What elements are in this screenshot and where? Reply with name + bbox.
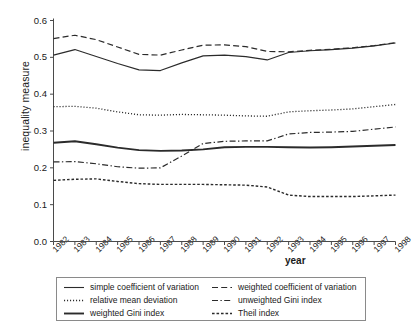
legend-item[interactable]: weighted Gini index	[63, 307, 211, 320]
series-line	[54, 179, 396, 197]
legend-item[interactable]: relative mean deviation	[63, 294, 211, 307]
legend-row: relative mean deviationunweighted Gini i…	[63, 294, 359, 307]
legend-item[interactable]: Theil index	[211, 307, 359, 320]
legend-label: simple coefficient of variation	[90, 283, 199, 292]
legend-line-sample	[211, 309, 233, 318]
legend-line-sample	[211, 296, 233, 305]
legend-item[interactable]: simple coefficient of variation	[63, 281, 211, 294]
legend-item[interactable]: unweighted Gini index	[211, 294, 359, 307]
chart-legend: simple coefficient of variationweighted …	[56, 277, 366, 321]
legend-row: simple coefficient of variationweighted …	[63, 281, 359, 294]
series-line	[54, 43, 396, 71]
legend-label: unweighted Gini index	[238, 296, 322, 305]
series-line	[54, 104, 396, 116]
legend-label: relative mean deviation	[90, 296, 177, 305]
legend-line-sample	[63, 296, 85, 305]
legend-item[interactable]: weighted coefficient of variation	[211, 281, 359, 294]
legend-row: weighted Gini indexTheil index	[63, 307, 359, 320]
legend-label: Theil index	[238, 309, 279, 318]
legend-line-sample	[63, 309, 85, 318]
inequality-measure-line-chart: inequality measure year 0.60.50.40.30.20…	[0, 0, 416, 327]
legend-label: weighted coefficient of variation	[238, 283, 356, 292]
series-line	[54, 35, 396, 55]
legend-line-sample	[211, 283, 233, 292]
series-line	[54, 141, 396, 151]
legend-line-sample	[63, 283, 85, 292]
legend-label: weighted Gini index	[90, 309, 164, 318]
